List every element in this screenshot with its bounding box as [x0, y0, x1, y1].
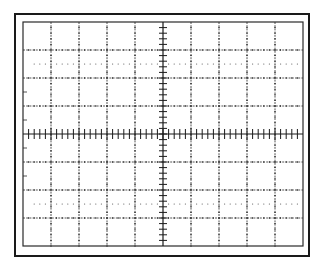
dotted-point	[101, 203, 102, 204]
dotted-point	[39, 203, 40, 204]
dotted-point	[263, 63, 264, 64]
dotted-point	[286, 63, 287, 64]
dotted-point	[129, 63, 130, 64]
dotted-point	[274, 63, 275, 64]
dotted-point	[213, 203, 214, 204]
dotted-point	[291, 203, 292, 204]
dotted-point	[168, 203, 169, 204]
dotted-point	[84, 63, 85, 64]
dotted-point	[218, 203, 219, 204]
dotted-point	[146, 63, 147, 64]
dotted-point	[45, 203, 46, 204]
dotted-point	[246, 63, 247, 64]
dotted-point	[129, 203, 130, 204]
dotted-point	[190, 63, 191, 64]
dotted-point	[241, 63, 242, 64]
dotted-point	[246, 203, 247, 204]
dotted-point	[84, 203, 85, 204]
dotted-point	[202, 203, 203, 204]
dotted-point	[235, 63, 236, 64]
dotted-point	[67, 63, 68, 64]
dotted-point	[73, 203, 74, 204]
dotted-point	[258, 63, 259, 64]
dotted-point	[230, 63, 231, 64]
dotted-point	[151, 63, 152, 64]
dotted-point	[56, 63, 57, 64]
dotted-point	[157, 203, 158, 204]
dotted-point	[95, 203, 96, 204]
dotted-point	[258, 203, 259, 204]
dotted-point	[185, 63, 186, 64]
dotted-point	[140, 203, 141, 204]
dotted-point	[118, 203, 119, 204]
dotted-point	[224, 63, 225, 64]
dotted-point	[56, 203, 57, 204]
dotted-point	[235, 203, 236, 204]
dotted-point	[34, 203, 35, 204]
dotted-point	[101, 63, 102, 64]
dotted-point	[73, 63, 74, 64]
dotted-point	[118, 63, 119, 64]
dotted-point	[78, 203, 79, 204]
dotted-point	[90, 203, 91, 204]
dotted-point	[112, 63, 113, 64]
dotted-point	[95, 63, 96, 64]
dotted-point	[62, 63, 63, 64]
dotted-point	[174, 203, 175, 204]
dotted-point	[50, 203, 51, 204]
dotted-point	[50, 63, 51, 64]
dotted-point	[106, 63, 107, 64]
dotted-point	[190, 203, 191, 204]
dotted-point	[179, 203, 180, 204]
dotted-point	[252, 63, 253, 64]
dotted-point	[34, 63, 35, 64]
dotted-point	[280, 63, 281, 64]
dotted-point	[252, 203, 253, 204]
dotted-point	[274, 203, 275, 204]
dotted-point	[123, 203, 124, 204]
dotted-point	[297, 203, 298, 204]
dotted-point	[140, 63, 141, 64]
center-axes	[23, 22, 303, 246]
dotted-point	[291, 63, 292, 64]
dotted-point	[280, 203, 281, 204]
dotted-point	[185, 203, 186, 204]
dotted-point	[67, 203, 68, 204]
dotted-point	[196, 203, 197, 204]
dotted-point	[218, 63, 219, 64]
dotted-point	[213, 63, 214, 64]
oscilloscope-graticule	[0, 0, 324, 262]
dotted-point	[207, 203, 208, 204]
dotted-point	[297, 63, 298, 64]
dotted-point	[263, 203, 264, 204]
dotted-point	[196, 63, 197, 64]
dotted-point	[134, 203, 135, 204]
dotted-point	[286, 203, 287, 204]
dotted-point	[202, 63, 203, 64]
dotted-point	[62, 203, 63, 204]
dotted-point	[224, 203, 225, 204]
dotted-point	[45, 63, 46, 64]
dotted-point	[207, 63, 208, 64]
dotted-point	[134, 63, 135, 64]
dotted-point	[174, 63, 175, 64]
dotted-point	[168, 63, 169, 64]
dotted-point	[39, 63, 40, 64]
dotted-point	[269, 203, 270, 204]
dotted-point	[112, 203, 113, 204]
dotted-point	[230, 203, 231, 204]
dotted-point	[241, 203, 242, 204]
dotted-point	[269, 63, 270, 64]
dotted-point	[179, 63, 180, 64]
dotted-point	[157, 63, 158, 64]
dotted-point	[106, 203, 107, 204]
dotted-point	[146, 203, 147, 204]
dotted-point	[78, 63, 79, 64]
dotted-point	[90, 63, 91, 64]
dotted-point	[123, 63, 124, 64]
dotted-point	[151, 203, 152, 204]
